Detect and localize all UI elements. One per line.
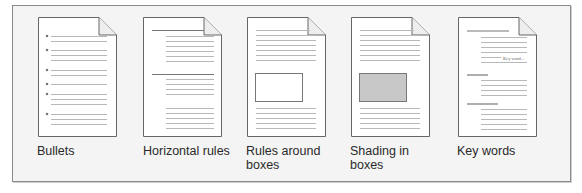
label-line: Shading in xyxy=(350,144,409,158)
bullets-page-illustration xyxy=(37,16,117,137)
label-line: boxes xyxy=(246,158,320,172)
document-page-icon xyxy=(350,16,432,140)
document-page-icon xyxy=(37,16,119,140)
panel-label-rules-around-boxes: Rules around boxes xyxy=(246,144,320,172)
panel-label-key-words: Key words xyxy=(457,144,515,158)
panel-label-bullets: Bullets xyxy=(37,144,75,158)
horizontal-rules-page-illustration xyxy=(142,16,222,137)
document-page-icon: Key word... xyxy=(457,16,539,140)
shading-in-boxes-page-illustration xyxy=(350,16,430,137)
rules-around-boxes-page-illustration xyxy=(246,16,326,137)
panel-label-horizontal-rules: Horizontal rules xyxy=(143,144,230,158)
document-page-icon xyxy=(246,16,328,140)
key-word-inline-text: Key word... xyxy=(503,56,524,61)
document-page-icon xyxy=(142,16,224,140)
label-line: boxes xyxy=(350,158,409,172)
key-words-page-illustration: Key word... xyxy=(457,16,537,137)
panel-label-shading-in-boxes: Shading in boxes xyxy=(350,144,409,172)
label-line: Rules around xyxy=(246,144,320,158)
